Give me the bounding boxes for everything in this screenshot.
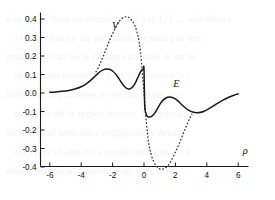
chart-plot: -6-4-20246 0.40.30.20.10.0-0.1-0.2-0.3-0… [0, 0, 275, 200]
x-tick-label: 2 [173, 171, 178, 180]
y-tick-label: 0.4 [25, 15, 37, 24]
x-tick-label: -2 [109, 171, 117, 180]
x-tick-label: -6 [46, 171, 54, 180]
y-tick-label: -0.3 [22, 145, 37, 154]
x-tick-label: 0 [142, 171, 147, 180]
x-tick-label: 6 [236, 171, 241, 180]
y-tick-label: -0.1 [22, 108, 37, 117]
x-tick-label: -4 [78, 171, 86, 180]
y-tick-label: -0.2 [22, 126, 37, 135]
y-tick-label: 0.1 [25, 71, 37, 80]
curve-label-v: V [112, 20, 120, 31]
y-tick-label: -0.4 [22, 163, 37, 172]
y-tick-label: 0.3 [25, 34, 37, 43]
curve-e-field [50, 66, 238, 117]
x-tick-label: 4 [205, 171, 210, 180]
curve-label-e: E [172, 78, 179, 89]
figure-container: a la fin ou bien on remplace 1,2 par 1, … [0, 0, 275, 200]
series-group [50, 17, 238, 169]
y-axis-ticks: 0.40.30.20.10.0-0.1-0.2-0.3-0.4 [22, 15, 44, 172]
y-tick-label: 0.2 [25, 52, 37, 61]
y-tick-label: 0.0 [25, 89, 37, 98]
x-axis-label: ρ [242, 145, 248, 156]
x-axis-ticks: -6-4-20246 [46, 163, 241, 180]
